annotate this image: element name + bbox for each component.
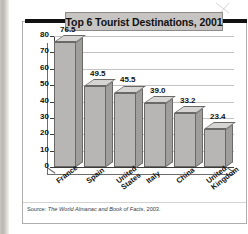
bar-side-face — [166, 98, 173, 167]
bar-side-face — [136, 88, 143, 167]
bar — [204, 129, 226, 167]
bar-side-face — [196, 108, 203, 167]
bar-front-face — [174, 113, 196, 167]
bar — [54, 42, 76, 167]
y-tick-label: 80 — [40, 30, 49, 39]
bar-value-label: 39.0 — [150, 86, 166, 95]
source-note: Source: The World Almanac and Book of Fa… — [27, 206, 242, 212]
bar-value-label: 23.4 — [210, 112, 226, 121]
bar — [174, 113, 196, 167]
bar-value-label: 49.5 — [90, 69, 106, 78]
bar — [114, 93, 136, 168]
figure-page: Top 6 Tourist Destinations, 2001 Million… — [9, 0, 248, 234]
y-tick-label: 10 — [40, 145, 49, 154]
bar-value-label: 45.5 — [120, 75, 136, 84]
bar-side-face — [106, 81, 113, 167]
source-title: The World Almanac and Book of Facts — [48, 206, 144, 212]
y-tick-mark — [50, 36, 54, 37]
source-divider — [23, 202, 246, 203]
bar-front-face — [54, 42, 76, 167]
gridline — [54, 167, 234, 168]
y-tick-label: 60 — [40, 63, 49, 72]
page-gutter-shadow — [0, 0, 9, 234]
bar-side-face — [76, 37, 83, 167]
bar-value-label: 33.2 — [180, 96, 196, 105]
bar-front-face — [84, 86, 106, 167]
source-year: , 2003. — [143, 206, 160, 212]
y-tick-label: 0 — [45, 161, 49, 170]
bar-front-face — [114, 93, 136, 168]
y-tick-label: 20 — [40, 128, 49, 137]
y-tick-label: 40 — [40, 96, 49, 105]
bar-value-label: 76.5 — [60, 25, 76, 34]
y-tick-label: 50 — [40, 79, 49, 88]
bar — [84, 86, 106, 167]
bar-front-face — [204, 129, 226, 167]
source-prefix: Source: — [27, 206, 48, 212]
bar-front-face — [144, 103, 166, 167]
y-tick-label: 70 — [40, 46, 49, 55]
y-tick-label: 30 — [40, 112, 49, 121]
plot-area: 01020304050607080 76.549.545.539.033.223… — [54, 36, 234, 167]
y-tick-mark — [50, 167, 54, 168]
bar — [144, 103, 166, 167]
